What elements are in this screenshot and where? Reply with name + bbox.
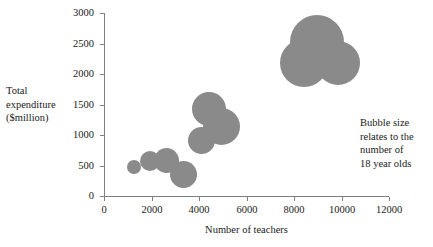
x-tick-mark: [199, 197, 200, 201]
x-tick-label: 0: [82, 205, 126, 216]
x-tick-mark: [152, 197, 153, 201]
y-tick-label: 3000: [52, 8, 94, 19]
y-tick-label: 2500: [52, 39, 94, 50]
x-tick-mark: [389, 197, 390, 201]
bubble-point: [170, 161, 197, 188]
plot-area: [104, 13, 389, 196]
bubble-point: [316, 41, 360, 85]
bubble-point: [203, 108, 240, 145]
x-tick-label: 6000: [225, 205, 269, 216]
y-tick-label: 2000: [52, 69, 94, 80]
y-tick-label: 500: [52, 161, 94, 172]
y-tick-label: 1000: [52, 130, 94, 141]
x-tick-mark: [294, 197, 295, 201]
x-axis-label: Number of teachers: [104, 224, 389, 235]
x-tick-label: 2000: [130, 205, 174, 216]
x-tick-label: 4000: [177, 205, 221, 216]
x-tick-mark: [247, 197, 248, 201]
x-tick-label: 12000: [367, 205, 411, 216]
x-tick-mark: [342, 197, 343, 201]
bubble-size-annotation: Bubble size relates to the number of 18 …: [360, 116, 432, 170]
x-tick-label: 8000: [272, 205, 316, 216]
x-tick-mark: [104, 197, 105, 201]
bubble-chart: Total expenditure ($million) 05001000150…: [0, 0, 433, 247]
bubble-point: [127, 160, 141, 174]
y-tick-label: 1500: [52, 100, 94, 111]
x-tick-label: 10000: [320, 205, 364, 216]
y-tick-label: 0: [52, 191, 94, 202]
